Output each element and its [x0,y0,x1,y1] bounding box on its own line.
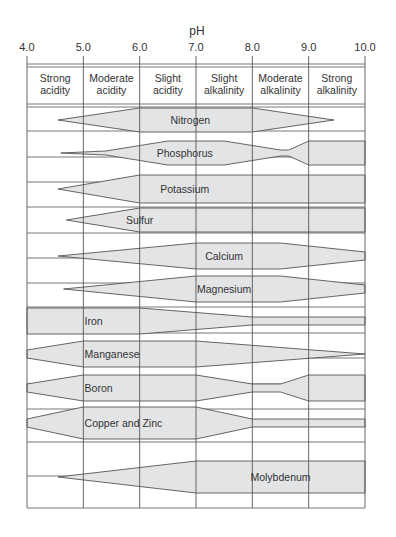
ph-zone-header: StrongacidityModerateaciditySlightacidit… [40,72,358,96]
zone-label: acidity [97,84,128,96]
x-tick-label: 4.0 [19,41,34,53]
zone-label: Strong [321,72,352,84]
zone-label: acidity [153,84,184,96]
x-tick-label: 8.0 [245,41,260,53]
zone-label: acidity [40,84,71,96]
band-label: Magnesium [197,283,252,295]
x-tick-label: 6.0 [132,41,147,53]
band-label: Boron [85,382,113,394]
zone-label: Moderate [258,72,303,84]
zone-label: Slight [155,72,181,84]
band-potassium [58,175,365,203]
zone-label: Strong [40,72,71,84]
ph-axis: pH 4.05.06.07.08.09.010.0 [19,24,375,53]
band-label: Nitrogen [171,114,211,126]
zone-label: alkalinity [260,84,301,96]
zone-label: Slight [211,72,237,84]
zone-label: alkalinity [317,84,358,96]
band-label: Potassium [160,183,209,195]
nutrient-availability-chart: NitrogenPhosphorusPotassiumSulfurCalcium… [0,0,396,537]
band-sulfur [66,208,365,232]
band-label: Manganese [85,348,140,360]
x-axis-title: pH [189,24,204,38]
zone-label: Moderate [89,72,134,84]
band-label: Copper and Zinc [85,417,163,429]
zone-label: alkalinity [204,84,245,96]
x-tick-label: 9.0 [301,41,316,53]
band-label: Molybdenum [250,471,310,483]
x-tick-label: 5.0 [76,41,91,53]
band-label: Phosphorus [157,147,213,159]
band-label: Calcium [205,250,243,262]
x-tick-label: 7.0 [188,41,203,53]
band-molybdenum [58,461,365,493]
band-label: Iron [85,315,103,327]
band-phosphorus [61,141,365,165]
x-tick-label: 10.0 [354,41,375,53]
band-label: Sulfur [126,214,154,226]
